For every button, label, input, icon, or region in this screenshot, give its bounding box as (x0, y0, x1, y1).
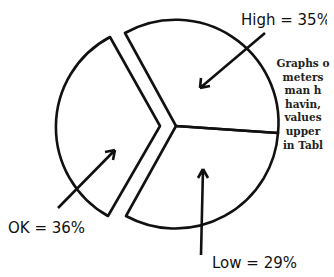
arrow-high (200, 33, 265, 88)
caption-line: values (263, 111, 334, 125)
slice-ok (56, 37, 160, 216)
slice-high (125, 20, 279, 133)
caption-line: man h (263, 84, 334, 98)
arrow-low (198, 169, 208, 255)
caption-line: in Tabl (263, 139, 334, 153)
side-caption-text: Graphs o meters man h havin, values uppe… (263, 57, 334, 152)
label-high: High = 35% (241, 11, 327, 29)
label-low: Low = 29% (212, 254, 297, 272)
caption-line: upper (263, 125, 334, 139)
caption-line: meters (263, 71, 334, 85)
caption-line: Graphs o (263, 57, 334, 71)
label-ok: OK = 36% (8, 219, 85, 237)
caption-line: havin, (263, 98, 334, 112)
